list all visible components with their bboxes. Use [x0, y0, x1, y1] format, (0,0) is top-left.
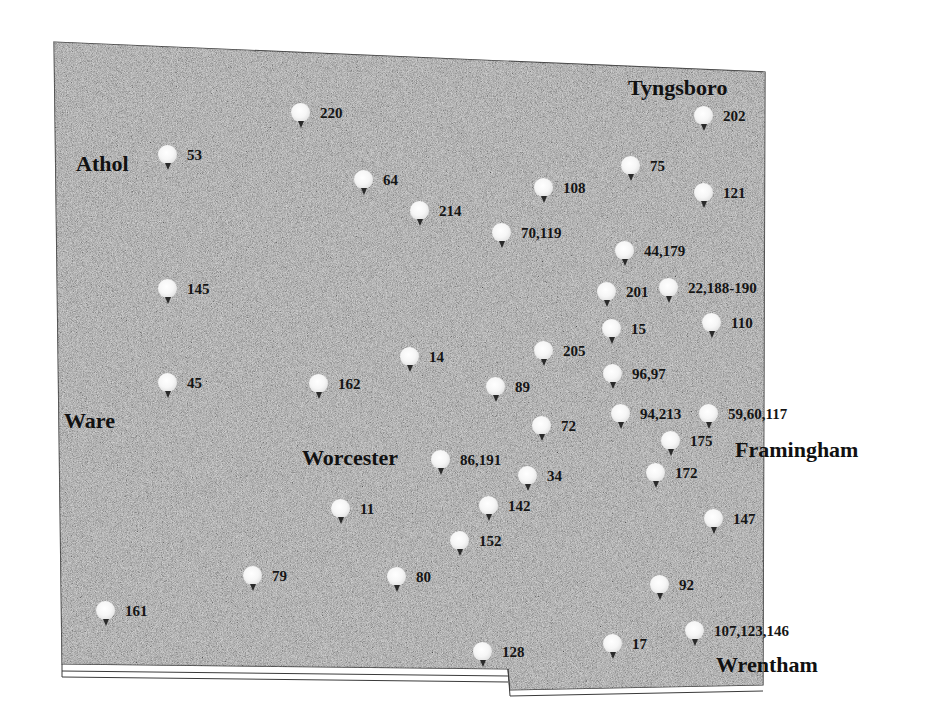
map-marker[interactable]: [602, 364, 624, 390]
map-marker[interactable]: [601, 319, 623, 345]
pin-stem-icon: [609, 337, 615, 344]
map-marker[interactable]: [531, 416, 553, 442]
pin-stem-icon: [165, 391, 171, 398]
map-marker[interactable]: [399, 347, 421, 373]
map-marker[interactable]: [478, 496, 500, 522]
marker-label: 80: [416, 570, 431, 585]
marker-label: 11: [360, 502, 374, 517]
map-marker[interactable]: [242, 566, 264, 592]
map-pin-icon: [400, 347, 419, 366]
map-pin-icon: [650, 575, 669, 594]
pin-stem-icon: [711, 527, 717, 534]
marker-label: 44,179: [644, 244, 685, 259]
pin-stem-icon: [250, 584, 256, 591]
marker-label: 92: [679, 578, 694, 593]
map-marker[interactable]: [596, 282, 618, 308]
marker-label: 214: [439, 204, 462, 219]
map-marker[interactable]: [386, 567, 408, 593]
marker-label: 14: [429, 350, 444, 365]
map-marker[interactable]: [693, 183, 715, 209]
map-pin-icon: [354, 170, 373, 189]
marker-label: 201: [626, 285, 649, 300]
map-marker[interactable]: [693, 106, 715, 132]
pin-stem-icon: [541, 196, 547, 203]
map-marker[interactable]: [353, 170, 375, 196]
marker-label: 162: [338, 377, 361, 392]
map-pin-icon: [699, 404, 718, 423]
map-marker[interactable]: [614, 241, 636, 267]
marker-label: 45: [187, 376, 202, 391]
pin-stem-icon: [604, 300, 610, 307]
map-pin-icon: [486, 377, 505, 396]
map-marker[interactable]: [684, 621, 706, 647]
map-marker[interactable]: [645, 463, 667, 489]
pin-stem-icon: [622, 259, 628, 266]
marker-label: 79: [272, 569, 287, 584]
marker-label: 96,97: [632, 367, 666, 382]
map-marker[interactable]: [430, 450, 452, 476]
map-marker[interactable]: [533, 341, 555, 367]
pin-stem-icon: [668, 449, 674, 456]
map-marker[interactable]: [308, 374, 330, 400]
map-marker[interactable]: [95, 601, 117, 627]
pin-stem-icon: [709, 331, 715, 338]
map-marker[interactable]: [658, 278, 680, 304]
map-pin-icon: [661, 431, 680, 450]
pin-stem-icon: [628, 174, 634, 181]
map-pin-icon: [492, 223, 511, 242]
map-marker[interactable]: [701, 313, 723, 339]
marker-label: 147: [733, 512, 756, 527]
pin-stem-icon: [539, 434, 545, 441]
map-marker[interactable]: [649, 575, 671, 601]
map-pin-icon: [479, 496, 498, 515]
pin-stem-icon: [701, 124, 707, 131]
map-marker[interactable]: [157, 279, 179, 305]
map-pin-icon: [532, 416, 551, 435]
pin-stem-icon: [457, 549, 463, 556]
markers-layer: 22053642142027510812170,11944,1791452012…: [0, 0, 941, 727]
marker-label: 89: [515, 380, 530, 395]
map-marker[interactable]: [620, 156, 642, 182]
pin-stem-icon: [417, 219, 423, 226]
marker-label: 152: [479, 534, 502, 549]
pin-stem-icon: [618, 422, 624, 429]
marker-label: 175: [690, 434, 713, 449]
map-marker[interactable]: [290, 103, 312, 129]
map-marker[interactable]: [472, 642, 494, 668]
map-marker[interactable]: [533, 178, 555, 204]
map-pin-icon: [694, 183, 713, 202]
pin-stem-icon: [361, 188, 367, 195]
map-pin-icon: [615, 241, 634, 260]
marker-label: 108: [563, 181, 586, 196]
marker-label: 34: [547, 469, 562, 484]
map-marker[interactable]: [703, 509, 725, 535]
map-marker[interactable]: [409, 201, 431, 227]
map-marker[interactable]: [157, 145, 179, 171]
map-view: Athol Tyngsboro Ware Worcester Framingha…: [0, 0, 941, 727]
map-marker[interactable]: [698, 404, 720, 430]
map-pin-icon: [704, 509, 723, 528]
map-marker[interactable]: [517, 466, 539, 492]
map-marker[interactable]: [485, 377, 507, 403]
marker-label: 94,213: [640, 407, 681, 422]
pin-stem-icon: [653, 481, 659, 488]
map-marker[interactable]: [449, 531, 471, 557]
map-marker[interactable]: [602, 634, 624, 660]
map-pin-icon: [291, 103, 310, 122]
marker-label: 72: [561, 419, 576, 434]
map-marker[interactable]: [660, 431, 682, 457]
map-pin-icon: [243, 566, 262, 585]
pin-stem-icon: [706, 422, 712, 429]
map-marker[interactable]: [330, 499, 352, 525]
marker-label: 53: [187, 148, 202, 163]
marker-label: 107,123,146: [714, 624, 789, 639]
pin-stem-icon: [316, 392, 322, 399]
map-marker[interactable]: [157, 373, 179, 399]
map-marker[interactable]: [610, 404, 632, 430]
pin-stem-icon: [165, 163, 171, 170]
pin-stem-icon: [610, 652, 616, 659]
marker-label: 202: [723, 109, 746, 124]
pin-stem-icon: [692, 639, 698, 646]
map-marker[interactable]: [491, 223, 513, 249]
map-pin-icon: [659, 278, 678, 297]
